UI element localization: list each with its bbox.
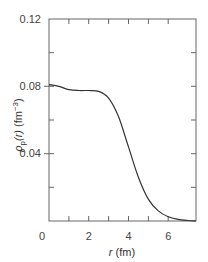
- y-tick-label: 0.12: [20, 13, 41, 25]
- y-axis-label: ρp(r) (fm−3): [11, 98, 27, 153]
- x-ticks-bottom: [69, 216, 168, 221]
- y-ticks-right: [191, 53, 196, 188]
- x-axis-label: r (fm): [109, 246, 135, 258]
- density-curve: [49, 85, 196, 221]
- y-tick-label: 0.08: [20, 80, 41, 92]
- x-tick-label: 4: [125, 230, 131, 242]
- chart: 0.12 0.08 0.04 0 2 4 6 r (fm) ρp(r) (fm−…: [0, 0, 208, 262]
- plot-frame: [49, 19, 196, 221]
- x-tick-label: 2: [86, 230, 92, 242]
- x-tick-label: 0: [39, 230, 45, 242]
- x-ticks-top: [69, 19, 168, 24]
- x-tick-label: 6: [165, 230, 171, 242]
